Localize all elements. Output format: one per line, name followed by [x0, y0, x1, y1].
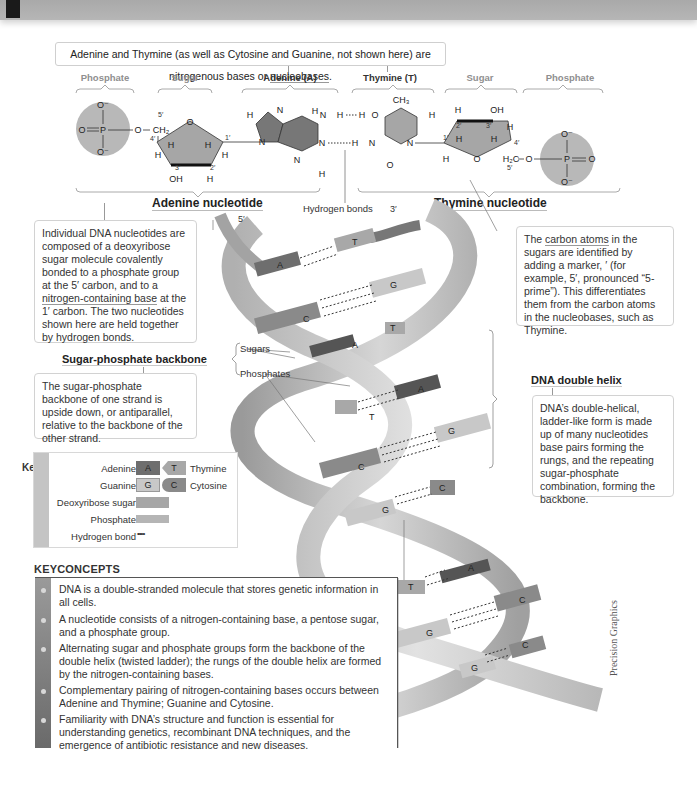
key-concepts-title: KEYCONCEPTS — [34, 563, 120, 575]
key-deoxyribose-label: Deoxyribose sugar — [54, 497, 136, 508]
nucleotide-callout-term: nitrogen-containing base — [42, 292, 157, 305]
key-guanine-label: Guanine — [64, 480, 136, 491]
svg-text:A: A — [277, 260, 283, 270]
svg-text:C: C — [303, 314, 310, 324]
bp-1: AT — [254, 228, 376, 276]
key-hbond-label: Hydrogen bond — [54, 531, 136, 542]
image-credit: Precision Graphics — [608, 600, 619, 676]
svg-text:G: G — [448, 426, 455, 436]
svg-text:C: C — [439, 483, 446, 493]
key-cytosine-swatch: C — [162, 478, 186, 492]
carbon-callout-term: carbon atoms — [545, 233, 609, 246]
svg-text:G: G — [390, 280, 397, 290]
key-deoxyribose-swatch — [136, 497, 169, 508]
double-helix-heading: DNA double helix — [531, 374, 622, 386]
bp-7: TA — [395, 559, 491, 594]
svg-text:C: C — [358, 462, 365, 472]
bullet-icon — [41, 689, 46, 694]
key-strip — [34, 453, 49, 547]
svg-text:A: A — [468, 563, 474, 573]
svg-text:3′: 3′ — [390, 204, 397, 214]
key-concept-item: A nucleotide consists of a nitrogen-cont… — [59, 613, 389, 639]
backbone-heading: Sugar-phosphate backbone — [62, 353, 207, 365]
svg-text:G: G — [426, 628, 433, 638]
svg-text:T: T — [369, 412, 375, 422]
key-concept-item: Complementary pairing of nitrogen-contai… — [59, 684, 389, 710]
bullet-icon — [41, 588, 46, 593]
svg-text:A: A — [418, 384, 424, 394]
bullet-icon — [41, 647, 46, 652]
svg-text:T: T — [408, 582, 414, 592]
backbone-callout: The sugar-phosphate backbone of one stra… — [34, 373, 197, 439]
sugars-label: Sugars — [240, 343, 270, 354]
carbon-callout: The carbon atoms in the sugars are ident… — [516, 226, 674, 326]
svg-text:G: G — [382, 505, 389, 515]
svg-text:C: C — [522, 640, 529, 650]
arrow-3prime-strand — [370, 225, 420, 238]
key-adenine-swatch: A — [136, 461, 160, 475]
bullet-icon — [41, 718, 46, 723]
phosphates-label: Phosphates — [240, 368, 290, 379]
key-phosphate-label: Phosphate — [54, 514, 136, 525]
svg-text:A: A — [352, 340, 358, 350]
double-helix-callout: DNA’s double-helical, ladder-like form i… — [532, 395, 674, 497]
nucleotide-callout: Individual DNA nucleotides are composed … — [34, 220, 197, 343]
key-concept-item: DNA is a double-stranded molecule that s… — [59, 583, 389, 609]
svg-text:5′: 5′ — [238, 214, 245, 224]
svg-text:T: T — [390, 323, 396, 333]
carbon-callout-text-end: in the sugars are identified by adding a… — [524, 233, 655, 336]
key-concepts-panel: DNA is a double-stranded molecule that s… — [35, 577, 398, 748]
key-adenine-label: Adenine — [64, 463, 136, 474]
key-thymine-label: Thymine — [190, 463, 226, 474]
nucleotide-callout-text: Individual DNA nucleotides are composed … — [42, 227, 185, 291]
key-concept-item: Familiarity with DNA’s structure and fun… — [59, 713, 389, 752]
bullet-icon — [41, 618, 46, 623]
svg-text:G: G — [471, 663, 478, 673]
key-concept-item: Alternating sugar and phosphate groups f… — [59, 642, 389, 681]
key-cytosine-label: Cytosine — [190, 480, 227, 491]
key-guanine-swatch: G — [136, 478, 160, 492]
svg-text:T: T — [352, 237, 358, 247]
svg-text:C: C — [519, 595, 526, 605]
carbon-callout-text: The — [524, 233, 545, 245]
key-hbond-symbol: •••• — [137, 529, 144, 538]
key-phosphate-swatch — [136, 515, 169, 523]
